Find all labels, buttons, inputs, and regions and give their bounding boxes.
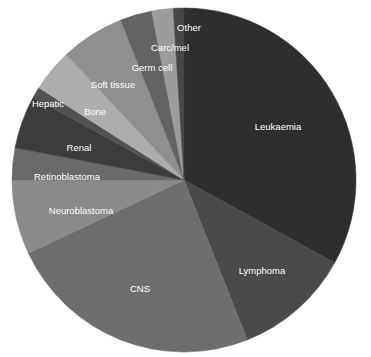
pie-slice-label: CNS xyxy=(130,283,150,294)
pie-slice-label: Bone xyxy=(84,106,106,117)
pie-slice-label: Renal xyxy=(67,142,92,153)
pie-slice-label: Soft tissue xyxy=(91,79,135,90)
pie-slice-label: Carc/mel xyxy=(151,42,189,53)
pie-slice-label: Hepatic xyxy=(32,98,64,109)
pie-slice-label: Germ cell xyxy=(132,62,173,73)
pie-slice-label: Leukaemia xyxy=(255,121,302,132)
pie-slice-label: Lymphoma xyxy=(239,265,286,276)
pie-chart-svg: LeukaemiaLymphomaCNSNeuroblastomaRetinob… xyxy=(0,0,371,357)
pie-slice-label: Retinoblastoma xyxy=(34,171,101,182)
pie-slice-label: Neuroblastoma xyxy=(49,205,114,216)
pie-slice-label: Other xyxy=(177,22,201,33)
pie-chart: LeukaemiaLymphomaCNSNeuroblastomaRetinob… xyxy=(0,0,371,357)
